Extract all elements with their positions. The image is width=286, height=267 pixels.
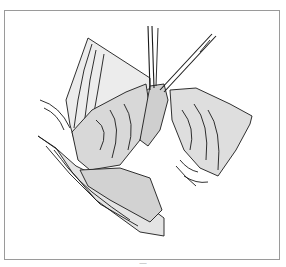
figure-caption: — (0, 259, 286, 267)
surgical-illustration (0, 0, 286, 267)
